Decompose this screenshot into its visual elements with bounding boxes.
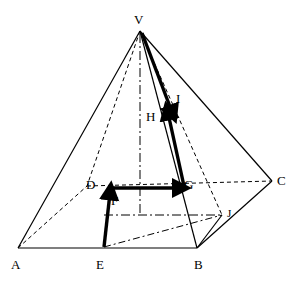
label-D: D <box>86 178 95 191</box>
label-B: B <box>194 258 203 271</box>
label-E: E <box>96 258 104 271</box>
label-A: A <box>11 258 20 271</box>
edge-BJ <box>197 215 222 248</box>
edge-VD <box>87 31 140 186</box>
label-F: F <box>111 194 118 207</box>
arrow-VH <box>142 33 172 112</box>
label-V: V <box>134 13 143 26</box>
pyramid-diagram-svg <box>0 0 296 281</box>
label-I: I <box>176 92 180 105</box>
geometry-figure: V A B C D E F G H I J <box>0 0 296 281</box>
edge-AD <box>18 186 87 248</box>
label-H: H <box>146 110 155 123</box>
label-C: C <box>277 174 286 187</box>
label-G: G <box>184 178 193 191</box>
arrow-EF <box>104 193 110 247</box>
label-J: J <box>227 208 231 219</box>
